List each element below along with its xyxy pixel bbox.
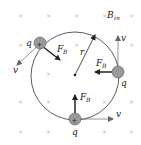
svg-text:×: × [129, 98, 134, 105]
svg-text:×: × [46, 98, 51, 105]
svg-text:×: × [129, 128, 134, 135]
field-label: B in [106, 10, 120, 21]
charge-bottom: + q v F B [69, 92, 121, 137]
svg-text:×: × [74, 12, 79, 19]
svg-text:×: × [74, 41, 79, 48]
svg-text:×: × [18, 128, 23, 135]
svg-text:×: × [46, 70, 51, 77]
svg-text:B: B [62, 48, 68, 55]
svg-text:×: × [129, 41, 134, 48]
svg-text:×: × [129, 12, 134, 19]
svg-text:v: v [116, 109, 121, 119]
svg-text:v: v [121, 33, 126, 43]
svg-text:in: in [114, 14, 120, 21]
charge-right: q v F B [95, 33, 127, 88]
charge [112, 66, 124, 78]
svg-text:v: v [13, 65, 18, 75]
svg-text:+: + [37, 41, 43, 49]
circular-motion-diagram: × × × × × × × × × × × × × × × × × B in r… [0, 0, 141, 145]
svg-text:B: B [106, 10, 114, 20]
svg-text:×: × [18, 12, 23, 19]
svg-text:×: × [102, 128, 107, 135]
svg-text:B: B [101, 62, 107, 69]
svg-text:q: q [72, 127, 78, 137]
svg-text:×: × [46, 12, 51, 19]
svg-text:×: × [18, 41, 23, 48]
svg-text:×: × [18, 98, 23, 105]
svg-text:q: q [26, 38, 32, 48]
svg-text:×: × [46, 128, 51, 135]
radius-label: r [80, 47, 85, 57]
svg-text:q: q [121, 78, 127, 88]
svg-text:×: × [102, 98, 107, 105]
svg-text:+: + [72, 117, 78, 125]
svg-text:B: B [85, 96, 91, 103]
